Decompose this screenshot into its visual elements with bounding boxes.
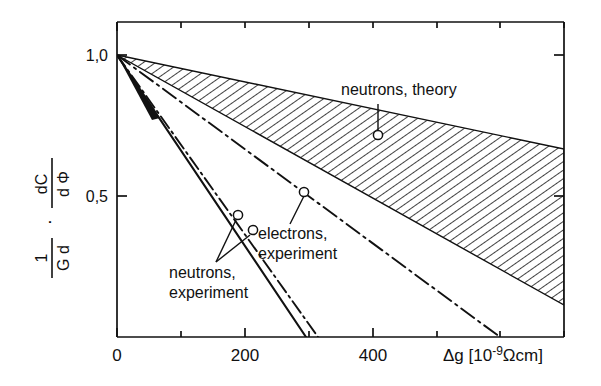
y-label-numerator-2: dC — [33, 174, 50, 194]
x-tick-label-400: 400 — [359, 346, 387, 365]
x-axis-label: Δg [10-9Ωcm] — [443, 344, 543, 365]
x-axis-label-tail: Ωcm] — [503, 346, 543, 365]
y-axis-label: 1 G d · dC d Φ — [33, 158, 72, 278]
annotation-neutrons-theory-label: neutrons, theory — [341, 81, 457, 98]
annotation-neutrons-experiment: neutrons, experiment — [169, 210, 258, 301]
annotation-electrons-experiment-line2: experiment — [258, 245, 338, 262]
figure-container: 1,0 0,5 0 200 400 Δg [10-9Ωcm] 1 G d · d… — [0, 0, 601, 386]
annotation-electrons-experiment: electrons, experiment — [258, 187, 338, 262]
y-tick-label-1: 1,0 — [86, 47, 108, 64]
y-tick-label-0: 0,5 — [86, 188, 108, 205]
annotation-neutrons-experiment-line1: neutrons, — [169, 264, 236, 281]
annotation-neutrons-experiment-line2: experiment — [169, 284, 249, 301]
x-axis-top-ticks — [117, 22, 564, 31]
x-axis-label-main: Δg [10 — [443, 346, 492, 365]
x-tick-label-200: 200 — [231, 346, 259, 365]
y-label-numerator-1: 1 — [33, 253, 50, 262]
chart-svg: 1,0 0,5 0 200 400 Δg [10-9Ωcm] 1 G d · d… — [0, 0, 601, 386]
annotation-electrons-experiment-line1: electrons, — [258, 225, 327, 242]
y-label-denominator-2: d Φ — [55, 171, 72, 197]
y-axis-ticks — [117, 55, 127, 196]
y-label-dot: · — [38, 219, 59, 225]
y-label-denominator-1: G d — [55, 245, 72, 271]
x-tick-label-0: 0 — [112, 346, 121, 365]
x-axis-label-exponent: -9 — [492, 344, 503, 358]
